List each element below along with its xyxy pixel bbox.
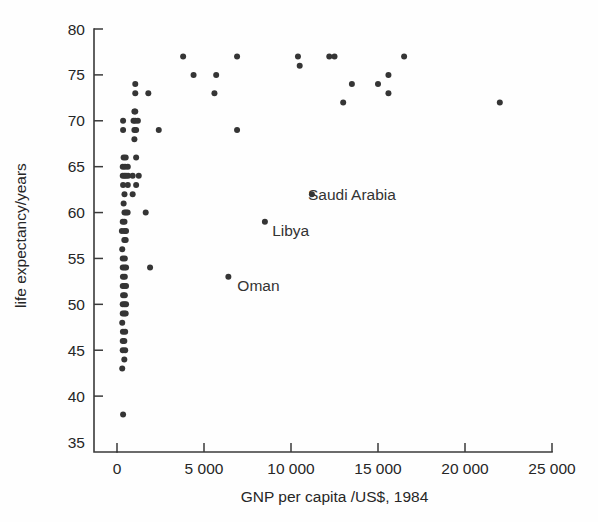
y-tick-label-45: 45 — [68, 342, 85, 359]
data-point — [123, 301, 129, 307]
data-point — [123, 311, 129, 317]
annotation-saudi-arabia: Saudi Arabia — [308, 186, 396, 203]
y-tick-label-35: 35 — [68, 434, 85, 451]
data-point — [180, 54, 186, 60]
data-point — [133, 154, 139, 160]
data-point — [119, 246, 125, 252]
data-point — [326, 54, 332, 60]
data-point — [332, 54, 338, 60]
point-annotations: Saudi ArabiaLibyaOman — [237, 186, 396, 294]
x-axis-title: GNP per capita /US$, 1984 — [241, 488, 429, 505]
data-point — [125, 210, 131, 216]
data-point — [295, 54, 301, 60]
data-point — [121, 338, 127, 344]
data-point — [191, 72, 197, 78]
data-point — [234, 54, 240, 60]
y-axis-spine — [94, 29, 117, 452]
data-point — [131, 136, 137, 142]
y-tick-label-75: 75 — [68, 66, 85, 83]
data-point — [121, 219, 127, 225]
scatter-plot-figure: 3540455055606570758005 00010 00015 00020… — [0, 0, 598, 522]
data-point — [136, 173, 142, 179]
data-point — [340, 99, 346, 105]
data-point — [120, 127, 126, 133]
data-point — [213, 72, 219, 78]
data-point — [123, 283, 129, 289]
annotation-oman: Oman — [237, 277, 279, 294]
data-point — [121, 356, 127, 362]
data-point — [123, 228, 129, 234]
y-tick-label-70: 70 — [68, 112, 86, 129]
data-point — [401, 54, 407, 60]
data-point — [156, 127, 162, 133]
x-tick-label-15000: 15 000 — [354, 460, 402, 477]
data-point — [122, 274, 128, 280]
data-point — [375, 81, 381, 87]
data-point — [132, 90, 138, 96]
data-point — [133, 127, 139, 133]
y-axis-title: life expectancy/years — [12, 163, 29, 308]
data-point — [211, 90, 217, 96]
data-point — [225, 274, 231, 280]
data-point — [121, 191, 127, 197]
data-point — [349, 81, 355, 87]
data-point — [122, 347, 128, 353]
data-point — [122, 292, 128, 298]
data-point — [125, 182, 131, 188]
data-point — [234, 127, 240, 133]
annotation-libya: Libya — [272, 222, 309, 239]
data-point — [385, 72, 391, 78]
y-tick-label-80: 80 — [68, 21, 86, 38]
x-tick-label-25000: 25 000 — [528, 460, 576, 477]
gnp-life-expectancy-scatter: 3540455055606570758005 00010 00015 00020… — [0, 0, 598, 522]
y-tick-label-60: 60 — [68, 204, 86, 221]
data-point — [135, 118, 141, 124]
data-point — [122, 255, 128, 261]
data-point — [125, 164, 131, 170]
data-point — [119, 320, 125, 326]
data-point — [385, 90, 391, 96]
y-tick-label-65: 65 — [68, 158, 85, 175]
data-point — [145, 90, 151, 96]
y-tick-label-50: 50 — [68, 296, 86, 313]
x-tick-label-5000: 5 000 — [185, 460, 224, 477]
data-point — [123, 237, 129, 243]
x-tick-label-10000: 10 000 — [267, 460, 315, 477]
data-point — [143, 210, 149, 216]
data-point — [120, 411, 126, 417]
data-point — [133, 182, 139, 188]
data-point — [130, 173, 136, 179]
data-point — [123, 154, 129, 160]
data-points — [119, 54, 503, 418]
data-point — [130, 191, 136, 197]
data-point — [297, 63, 303, 69]
x-tick-label-0: 0 — [113, 460, 122, 477]
axes: 3540455055606570758005 00010 00015 00020… — [68, 21, 576, 478]
data-point — [147, 265, 153, 271]
data-point — [262, 219, 268, 225]
y-tick-label-55: 55 — [68, 250, 85, 267]
data-point — [121, 200, 127, 206]
x-tick-label-20000: 20 000 — [441, 460, 489, 477]
data-point — [132, 81, 138, 87]
data-point — [122, 329, 128, 335]
data-point — [497, 99, 503, 105]
data-point — [120, 118, 126, 124]
data-point — [132, 109, 138, 115]
data-point — [119, 366, 125, 372]
data-point — [123, 265, 129, 271]
y-tick-label-40: 40 — [68, 388, 86, 405]
